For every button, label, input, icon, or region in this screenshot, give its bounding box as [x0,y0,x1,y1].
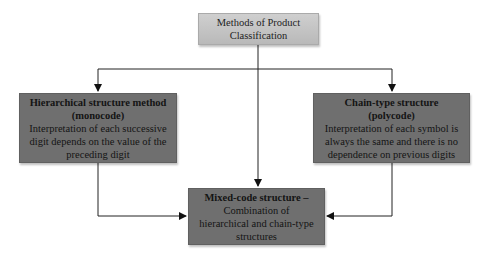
chain-description: Interpretation of each symbol is always … [314,122,469,161]
mixed-node: Mixed-code structure – Combination of hi… [188,188,325,245]
chain-subtitle: (polycode) [368,109,415,122]
hierarchical-title: Hierarchical structure method [30,96,167,109]
mixed-description: Combination of hierarchical and chain-ty… [189,204,324,243]
chain-title: Chain-type structure [344,96,438,109]
root-label-line1: Methods of Product [217,16,300,29]
mixed-title: Mixed-code structure – [204,191,308,204]
root-label-line2: Classification [230,29,288,42]
arrow-chain-to-mixed [327,163,392,216]
chain-node: Chain-type structure (polycode) Interpre… [313,93,470,163]
hierarchical-node: Hierarchical structure method (monocode)… [19,93,177,163]
hierarchical-description: Interpretation of each successive digit … [20,122,176,161]
arrow-hierarchical-to-mixed [98,163,186,216]
hierarchical-subtitle: (monocode) [72,109,125,122]
root-node: Methods of Product Classification [198,13,319,45]
